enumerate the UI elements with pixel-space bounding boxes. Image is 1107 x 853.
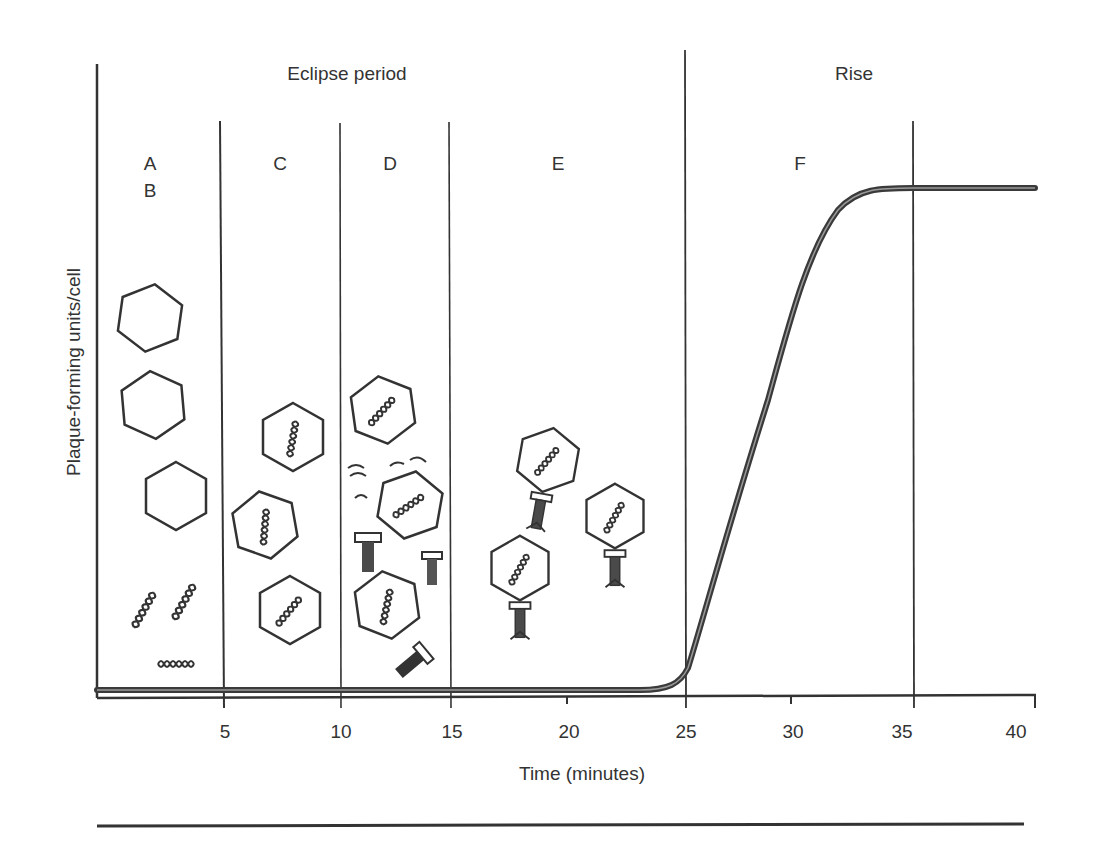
divider-25min: [685, 50, 686, 708]
stage-e-illustration: [492, 423, 644, 639]
divider-10min: [340, 123, 341, 708]
divider-35min: [913, 121, 914, 708]
phage-icon: [492, 536, 549, 640]
dna-strand-icon: [171, 583, 197, 621]
stage-label-f: F: [794, 153, 806, 174]
x-axis-label: Time (minutes): [519, 763, 645, 784]
rise-label: Rise: [835, 63, 873, 84]
tail-icon: [392, 642, 434, 682]
tick-label-10: 10: [330, 721, 351, 742]
stage-label-a: A: [144, 153, 157, 174]
y-axis-label: Plaque-forming units/cell: [63, 268, 84, 476]
empty-capsid-icon: [146, 462, 206, 530]
stage-d-illustration: [348, 372, 445, 682]
tick-label-35: 35: [891, 721, 912, 742]
tick-label-25: 25: [675, 721, 696, 742]
filled-capsid-icon: [260, 576, 320, 644]
dna-strand-icon: [158, 661, 194, 667]
stage-label-c: C: [273, 153, 287, 174]
dna-strand-icon: [131, 591, 157, 629]
filled-capsid-icon: [353, 567, 422, 643]
eclipse-period-label: Eclipse period: [287, 63, 406, 84]
filled-capsid-icon: [263, 403, 323, 471]
empty-capsid-icon: [116, 280, 185, 356]
tail-fiber-icon: [348, 457, 426, 498]
filled-capsid-icon: [230, 486, 301, 563]
x-tick-labels: 5 10 15 20 25 30 35 40: [220, 721, 1027, 742]
stage-label-d: D: [383, 153, 397, 174]
tick-label-15: 15: [441, 721, 462, 742]
filled-capsid-icon: [375, 466, 446, 543]
filled-capsid-icon: [349, 372, 418, 448]
stage-label-b: B: [144, 180, 157, 201]
tail-icon: [355, 533, 381, 572]
stage-label-e: E: [552, 153, 565, 174]
phage-icon: [587, 484, 644, 588]
phage-icon: [508, 423, 582, 535]
tick-label-40: 40: [1005, 721, 1026, 742]
stage-ab-illustration: [116, 280, 206, 667]
divider-15min: [449, 122, 451, 708]
stage-dividers: [220, 50, 914, 708]
bottom-rule: [97, 824, 1024, 826]
plot-frame: [97, 64, 1036, 698]
tick-label-5: 5: [220, 721, 231, 742]
divider-5min: [220, 121, 224, 708]
growth-curve-figure: 5 10 15 20 25 30 35 40 Time (minutes) Pl…: [0, 0, 1107, 853]
empty-capsid-icon: [120, 369, 186, 442]
tick-label-20: 20: [558, 721, 579, 742]
tail-icon: [422, 552, 442, 585]
stage-c-illustration: [230, 403, 323, 644]
tick-label-30: 30: [782, 721, 803, 742]
